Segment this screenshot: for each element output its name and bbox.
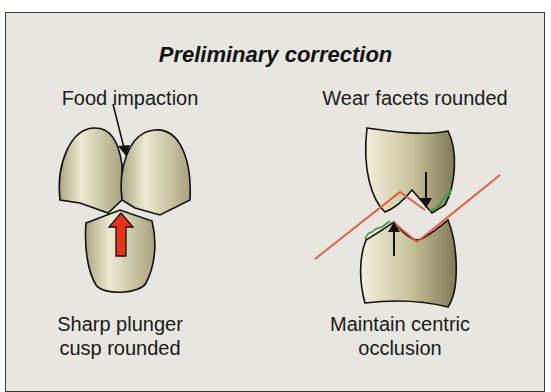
- upper-right-tooth-icon: [121, 130, 190, 215]
- lower-molar-icon: [361, 220, 457, 307]
- upper-left-tooth-icon: [59, 128, 122, 213]
